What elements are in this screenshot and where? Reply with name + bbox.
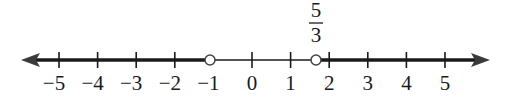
tick-label: 3 [363,71,374,95]
open-circle-five-thirds [311,55,321,65]
tick-label: 4 [401,71,412,95]
tick-labels: −5−4−3−2−1012345 [43,71,450,95]
tick-label: −4 [81,71,104,95]
tick-label: 1 [285,71,296,95]
tick-label: −1 [197,71,219,95]
tick-label: 0 [247,71,258,95]
tick-label: −2 [159,71,181,95]
fraction-numerator: 5 [311,0,322,22]
tick-label: 2 [324,71,335,95]
fraction-denominator: 3 [311,23,322,47]
open-circle-neg1 [205,55,215,65]
tick-label: 5 [440,71,451,95]
number-line-diagram: −5−4−3−2−1012345 5 3 [0,0,510,98]
tick-label: −5 [43,71,65,95]
tick-label: −3 [120,71,142,95]
